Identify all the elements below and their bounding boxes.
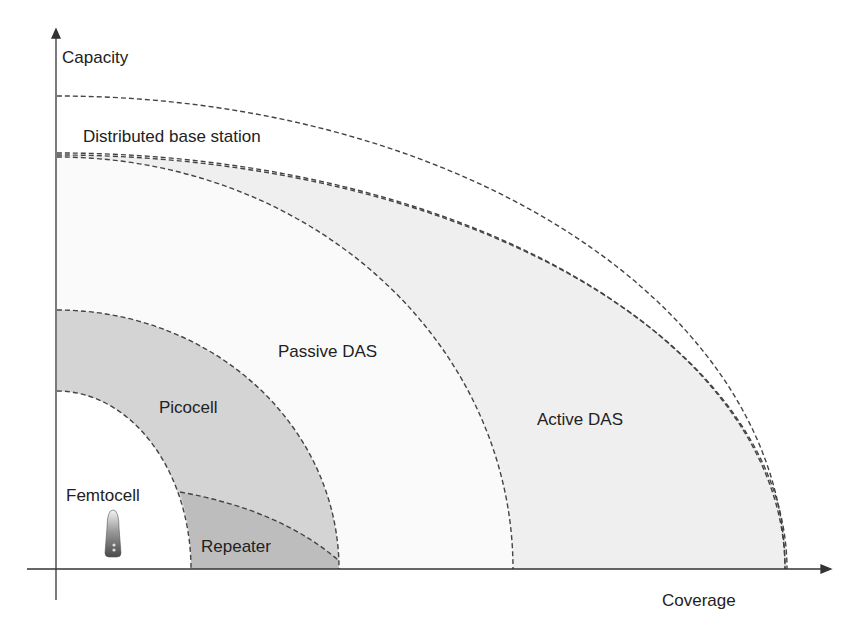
capacity-coverage-diagram: Capacity Coverage Distributed base stati… [0,0,859,635]
label-repeater: Repeater [201,537,271,556]
y-axis-arrow-icon [52,29,60,38]
label-picocell: Picocell [159,398,218,417]
label-active-das: Active DAS [537,410,623,429]
label-femtocell: Femtocell [66,486,140,505]
label-distributed-base-station: Distributed base station [83,127,261,146]
label-passive-das: Passive DAS [278,342,377,361]
x-axis-arrow-icon [821,565,831,573]
x-axis-label: Coverage [662,591,736,610]
y-axis-label: Capacity [62,48,129,67]
